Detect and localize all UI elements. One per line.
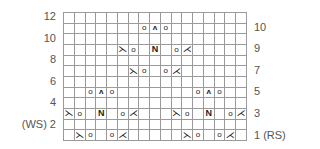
chart-cell bbox=[107, 66, 118, 77]
chart-cell bbox=[139, 45, 150, 56]
chart-cell bbox=[215, 66, 226, 77]
k2tog-decrease-icon: ⋌ bbox=[225, 130, 236, 141]
chart-cell bbox=[96, 45, 107, 56]
chart-cell bbox=[225, 120, 236, 131]
chart-cell bbox=[139, 130, 150, 141]
chart-cell bbox=[193, 120, 204, 131]
row-label: 1 (RS) bbox=[254, 130, 286, 141]
central-double-decrease-icon: ʌ bbox=[204, 88, 215, 99]
chart-cell bbox=[118, 120, 129, 131]
row-label: 4 bbox=[50, 97, 56, 108]
chart-cell bbox=[182, 98, 193, 109]
chart-cell bbox=[193, 56, 204, 67]
chart-cell bbox=[75, 24, 86, 35]
chart-cell bbox=[182, 13, 193, 24]
chart-cell bbox=[193, 109, 204, 120]
chart-cell bbox=[75, 120, 86, 131]
chart-cell bbox=[86, 109, 97, 120]
chart-cell bbox=[75, 56, 86, 67]
chart-cell bbox=[215, 45, 226, 56]
chart-cell bbox=[204, 56, 215, 67]
ssk-decrease-icon: ⋋ bbox=[64, 109, 75, 120]
chart-cell bbox=[86, 120, 97, 131]
chart-cell bbox=[236, 56, 247, 67]
chart-cell bbox=[75, 66, 86, 77]
chart-cell bbox=[236, 34, 247, 45]
chart-cell bbox=[182, 120, 193, 131]
ssk-decrease-icon: ⋋ bbox=[182, 130, 193, 141]
chart-cell bbox=[182, 77, 193, 88]
chart-cell bbox=[204, 45, 215, 56]
chart-cell bbox=[107, 77, 118, 88]
yarn-over-icon: o bbox=[107, 88, 118, 99]
yarn-over-icon: o bbox=[193, 130, 204, 141]
chart-cell bbox=[64, 130, 75, 141]
yarn-over-icon: o bbox=[215, 88, 226, 99]
chart-cell bbox=[193, 24, 204, 35]
chart-cell bbox=[107, 13, 118, 24]
yarn-over-icon: o bbox=[107, 130, 118, 141]
chart-cell bbox=[118, 13, 129, 24]
chart-cell bbox=[64, 56, 75, 67]
row-label: 5 bbox=[254, 86, 260, 97]
ssk-decrease-icon: ⋋ bbox=[118, 45, 129, 56]
yarn-over-icon: o bbox=[182, 109, 193, 120]
chart-cell bbox=[129, 98, 140, 109]
chart-cell bbox=[236, 66, 247, 77]
chart-cell bbox=[204, 13, 215, 24]
k2tog-decrease-icon: ⋌ bbox=[236, 109, 247, 120]
chart-cell bbox=[193, 34, 204, 45]
chart-cell bbox=[161, 88, 172, 99]
chart-cell bbox=[75, 88, 86, 99]
chart-cell bbox=[182, 66, 193, 77]
chart-cell bbox=[75, 45, 86, 56]
chart-cell bbox=[204, 120, 215, 131]
chart-cell bbox=[172, 77, 183, 88]
chart-cell bbox=[161, 56, 172, 67]
chart-cell bbox=[118, 56, 129, 67]
chart-cell bbox=[172, 88, 183, 99]
chart-cell bbox=[150, 77, 161, 88]
chart-cell bbox=[107, 56, 118, 67]
chart-cell bbox=[86, 77, 97, 88]
chart-cell bbox=[236, 98, 247, 109]
chart-cell bbox=[150, 66, 161, 77]
chart-cell bbox=[64, 45, 75, 56]
chart-cell bbox=[161, 130, 172, 141]
chart-cell bbox=[236, 24, 247, 35]
chart-cell bbox=[150, 130, 161, 141]
chart-cell bbox=[139, 77, 150, 88]
chart-cell bbox=[118, 66, 129, 77]
chart-cell bbox=[225, 13, 236, 24]
yarn-over-icon: o bbox=[161, 66, 172, 77]
chart-cell bbox=[236, 120, 247, 131]
chart-cell bbox=[236, 130, 247, 141]
chart-cell bbox=[204, 66, 215, 77]
chart-cell bbox=[64, 24, 75, 35]
chart-cell bbox=[139, 88, 150, 99]
yarn-over-icon: o bbox=[86, 130, 97, 141]
chart-cell bbox=[215, 56, 226, 67]
chart-cell bbox=[161, 98, 172, 109]
yarn-over-icon: o bbox=[225, 109, 236, 120]
yarn-over-icon: o bbox=[86, 88, 97, 99]
k2tog-decrease-icon: ⋌ bbox=[182, 45, 193, 56]
chart-cell bbox=[129, 120, 140, 131]
chart-cell bbox=[172, 34, 183, 45]
k2tog-decrease-icon: ⋌ bbox=[118, 130, 129, 141]
yarn-over-icon: o bbox=[139, 24, 150, 35]
chart-cell bbox=[107, 109, 118, 120]
row-label: 6 bbox=[50, 76, 56, 87]
chart-cell bbox=[150, 34, 161, 45]
chart-cell bbox=[236, 45, 247, 56]
knitting-chart-grid: oʌo⋋oNo⋌⋋oo⋌oʌooʌo⋋oNo⋌⋋oNo⋌⋋oo⋌⋋oo⋌ bbox=[63, 12, 247, 141]
yarn-over-icon: o bbox=[129, 45, 140, 56]
chart-cell bbox=[193, 66, 204, 77]
chart-cell bbox=[96, 34, 107, 45]
ssk-decrease-icon: ⋋ bbox=[172, 109, 183, 120]
chart-cell bbox=[129, 56, 140, 67]
chart-cell bbox=[64, 34, 75, 45]
chart-cell bbox=[139, 109, 150, 120]
chart-cell bbox=[107, 45, 118, 56]
chart-cell bbox=[107, 120, 118, 131]
